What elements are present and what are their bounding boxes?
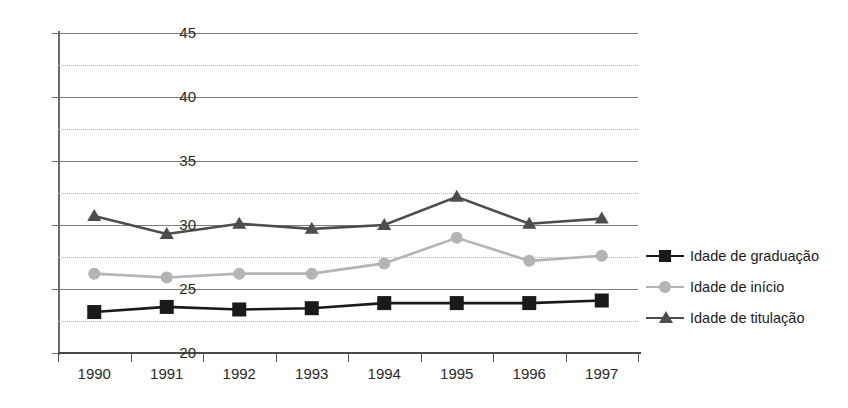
gridline-minor bbox=[58, 193, 638, 195]
gridline-minor bbox=[58, 129, 638, 131]
legend-square-icon bbox=[659, 250, 671, 262]
legend-item[interactable]: Idade de titulação bbox=[646, 302, 846, 333]
y-axis-tick bbox=[52, 225, 59, 226]
x-axis-tick bbox=[421, 353, 422, 362]
legend-item-label: Idade de titulação bbox=[690, 310, 804, 326]
x-axis-tick bbox=[348, 353, 349, 362]
line-chart-figure: Idade de graduaçãoIdade de inícioIdade d… bbox=[0, 0, 848, 408]
x-axis-tick bbox=[58, 353, 59, 362]
legend-item-label: Idade de início bbox=[690, 279, 784, 295]
legend-item[interactable]: Idade de início bbox=[646, 271, 846, 302]
y-axis-tick bbox=[52, 161, 59, 162]
y-axis-tick bbox=[52, 97, 59, 98]
x-axis-tick-label: 1997 bbox=[567, 365, 637, 382]
legend-item-label: Idade de graduação bbox=[690, 248, 819, 264]
x-axis-tick-label: 1994 bbox=[349, 365, 419, 382]
legend-swatch bbox=[646, 278, 684, 296]
legend-circle-icon bbox=[659, 281, 671, 293]
plot-area bbox=[58, 33, 640, 353]
x-axis-tick bbox=[276, 353, 277, 362]
x-axis-tick bbox=[638, 353, 639, 362]
legend-swatch bbox=[646, 247, 684, 265]
x-axis-tick-label: 1992 bbox=[204, 365, 274, 382]
x-axis-tick-label: 1991 bbox=[132, 365, 202, 382]
chart-legend: Idade de graduaçãoIdade de inícioIdade d… bbox=[646, 240, 846, 333]
gridline-minor bbox=[58, 321, 638, 323]
legend-item[interactable]: Idade de graduação bbox=[646, 240, 846, 271]
x-axis-tick bbox=[131, 353, 132, 362]
y-axis-tick-label: 40 bbox=[156, 88, 196, 105]
y-axis-tick-label: 45 bbox=[156, 24, 196, 41]
x-axis-tick-label: 1996 bbox=[494, 365, 564, 382]
gridline-minor bbox=[58, 65, 638, 67]
y-axis-tick-label: 25 bbox=[156, 280, 196, 297]
gridline-major bbox=[58, 161, 638, 162]
x-axis-tick bbox=[493, 353, 494, 362]
legend-triangle-icon bbox=[659, 311, 673, 323]
gridline-major bbox=[58, 225, 638, 226]
y-axis-tick-label: 30 bbox=[156, 216, 196, 233]
y-axis-tick bbox=[52, 289, 59, 290]
x-axis-tick-label: 1995 bbox=[422, 365, 492, 382]
gridline-minor bbox=[58, 257, 638, 259]
y-axis-tick-label: 35 bbox=[156, 152, 196, 169]
x-axis-tick bbox=[203, 353, 204, 362]
x-axis-tick-label: 1993 bbox=[277, 365, 347, 382]
y-axis-tick-label: 20 bbox=[156, 344, 196, 361]
gridline-major bbox=[58, 289, 638, 290]
legend-swatch bbox=[646, 309, 684, 327]
gridline-major bbox=[58, 97, 638, 98]
x-axis-tick-label: 1990 bbox=[59, 365, 129, 382]
y-axis-tick bbox=[52, 33, 59, 34]
x-axis-tick bbox=[566, 353, 567, 362]
gridline-major bbox=[58, 33, 638, 34]
